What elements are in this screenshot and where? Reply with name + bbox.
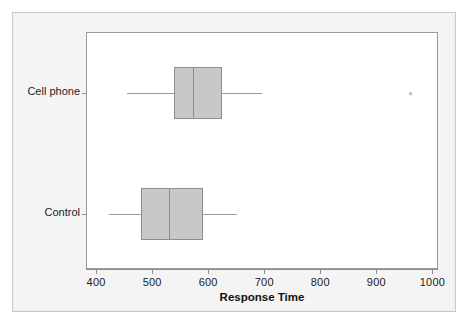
x-axis-tick — [208, 269, 209, 274]
x-axis-tick-label: 600 — [178, 276, 238, 288]
whisker-low-cell-phone — [127, 93, 174, 94]
x-axis-tick-label: 500 — [122, 276, 182, 288]
category-label-control: Control — [0, 206, 84, 218]
median-line-cell-phone — [193, 67, 194, 119]
x-axis-tick — [264, 269, 265, 274]
box-iqr-control — [141, 188, 202, 240]
category-axis-tick — [82, 214, 87, 215]
chart-screenshot: 4005006007008009001000 Response Time Cel… — [0, 0, 469, 323]
x-axis-tick-label: 900 — [346, 276, 406, 288]
whisker-low-control — [109, 214, 142, 215]
outlier-point-cell-phone: × — [408, 91, 413, 96]
x-axis-tick — [376, 269, 377, 274]
box-iqr-cell-phone — [174, 67, 222, 119]
x-axis-tick — [320, 269, 321, 274]
x-axis-tick — [152, 269, 153, 274]
x-axis-tick — [96, 269, 97, 274]
category-axis-tick — [82, 93, 87, 94]
category-label-cell-phone: Cell phone — [0, 85, 84, 97]
x-axis-line — [86, 269, 438, 270]
category-label-text: Control — [0, 206, 80, 218]
x-axis-title: Response Time — [86, 291, 438, 303]
whisker-high-cell-phone — [222, 93, 262, 94]
plot-area — [86, 32, 438, 269]
x-axis-tick-label: 400 — [66, 276, 126, 288]
x-axis-tick-label: 1000 — [402, 276, 462, 288]
x-axis-tick-label: 700 — [234, 276, 294, 288]
whisker-high-control — [203, 214, 238, 215]
median-line-control — [169, 188, 170, 240]
x-axis-tick-label: 800 — [290, 276, 350, 288]
category-label-text: Cell phone — [0, 85, 80, 97]
x-axis-tick — [432, 269, 433, 274]
